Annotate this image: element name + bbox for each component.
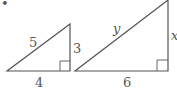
large-right-angle-marker: [157, 60, 168, 71]
bullet-marker: •: [1, 0, 9, 11]
large-triangle: y x 6: [75, 0, 177, 89]
large-hypotenuse-label: y: [112, 21, 121, 36]
similar-triangles-diagram: • 5 3 4 y x 6: [0, 0, 177, 89]
small-right-angle-marker: [60, 61, 70, 71]
small-vertical-leg-label: 3: [73, 41, 81, 56]
large-vertical-leg-label: x: [171, 28, 177, 43]
small-triangle-shape: [7, 24, 70, 71]
small-hypotenuse-label: 5: [29, 35, 37, 50]
large-horizontal-leg-label: 6: [123, 75, 131, 89]
small-triangle: 5 3 4: [7, 24, 81, 89]
small-horizontal-leg-label: 4: [35, 75, 43, 89]
large-triangle-shape: [75, 0, 168, 71]
